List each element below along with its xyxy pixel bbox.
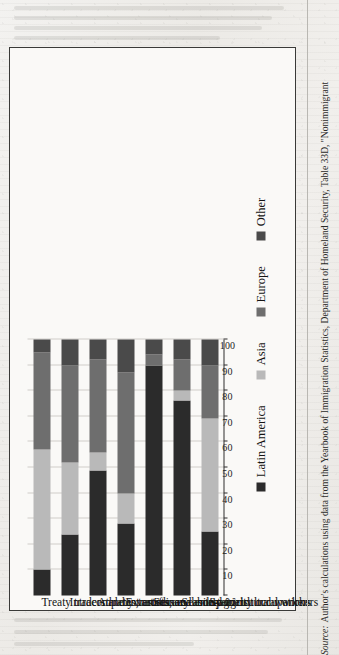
- bar-segment-latin-america: [33, 569, 50, 595]
- bar-5: [145, 339, 162, 595]
- bar-segment-latin-america: [89, 470, 106, 595]
- axis-tick: [223, 364, 227, 365]
- bar-segment-latin-america: [117, 523, 134, 595]
- axis-tick-label: 70: [222, 416, 232, 427]
- legend-swatch-icon: [256, 370, 265, 379]
- legend-swatch-icon: [256, 307, 265, 316]
- legend-item-europe: Europe: [253, 266, 268, 316]
- legend-item-other: Other: [253, 197, 268, 239]
- bar-3: [89, 339, 106, 595]
- bar-segment-asia: [173, 390, 190, 400]
- bar-segment-latin-america: [61, 534, 78, 595]
- category-label: Specialty occupations: [209, 595, 310, 607]
- bar-segment-asia: [61, 462, 78, 534]
- bar-segment-other: [61, 339, 78, 365]
- bar-segment-europe: [201, 365, 218, 419]
- bar-segment-asia: [201, 418, 218, 531]
- legend-label: Other: [253, 197, 268, 225]
- axis-tick-label: 80: [222, 390, 232, 401]
- bar-4: [117, 339, 134, 595]
- bar-segment-europe: [89, 359, 106, 451]
- axis-tick-label: 30: [222, 518, 232, 529]
- legend-swatch-icon: [256, 482, 265, 491]
- legend-label: Latin America: [253, 405, 268, 477]
- bar-segment-europe: [117, 372, 134, 492]
- rotated-chart-wrapper: 0102030405060708090100 Latin AmericaAsia…: [13, 51, 292, 607]
- source-text: Author's calculations using data from th…: [319, 82, 330, 623]
- bar-segment-asia: [33, 449, 50, 569]
- bar-segment-asia: [117, 493, 134, 524]
- legend-item-latin-america: Latin America: [253, 405, 268, 491]
- bar-segment-latin-america: [201, 531, 218, 595]
- bar-1: [33, 339, 50, 595]
- figure-source-caption: Source: Author's calculations using data…: [311, 0, 337, 655]
- bar-segment-other: [201, 339, 218, 365]
- bar-6: [173, 339, 190, 595]
- legend-label: Europe: [253, 266, 268, 302]
- bar-2: [61, 339, 78, 595]
- legend-label: Asia: [253, 342, 268, 365]
- bar-segment-latin-america: [173, 400, 190, 595]
- bar-segment-other: [33, 339, 50, 352]
- bar-segment-other: [173, 339, 190, 359]
- figure-frame: 0102030405060708090100 Latin AmericaAsia…: [9, 47, 296, 611]
- bar-segment-other: [89, 339, 106, 359]
- source-label: Source:: [319, 626, 330, 655]
- bar-segment-europe: [145, 354, 162, 364]
- stacked-bar-chart: 0102030405060708090100 Latin AmericaAsia…: [13, 51, 292, 607]
- bar-segment-other: [145, 339, 162, 354]
- axis-tick-label: 10: [222, 569, 232, 580]
- margin-rule: [307, 0, 308, 655]
- chart-legend: Latin AmericaAsiaEuropeOther: [249, 71, 271, 591]
- axis-tick-label: 20: [222, 544, 232, 555]
- bar-segment-asia: [89, 452, 106, 470]
- legend-swatch-icon: [256, 231, 265, 240]
- plot-area: 0102030405060708090100: [27, 339, 224, 595]
- bar-segment-latin-america: [145, 365, 162, 595]
- axis-tick-label: 50: [222, 467, 232, 478]
- axis-tick-label: 60: [222, 441, 232, 452]
- bar-segment-europe: [61, 365, 78, 462]
- axis-tick: [223, 492, 227, 493]
- axis-tick-label: 90: [222, 365, 232, 376]
- legend-item-asia: Asia: [253, 342, 268, 379]
- bar-7: [201, 339, 218, 595]
- axis-tick-label: 100: [219, 339, 235, 350]
- bar-segment-other: [117, 339, 134, 372]
- bar-segment-europe: [33, 352, 50, 449]
- axis-tick-label: 40: [222, 493, 232, 504]
- bar-segment-europe: [173, 359, 190, 390]
